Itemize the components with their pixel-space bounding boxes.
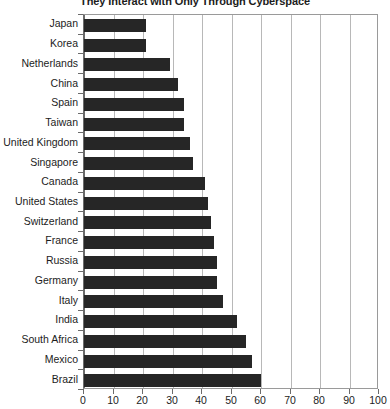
bar xyxy=(84,197,208,210)
y-axis-label: Taiwan xyxy=(0,117,78,128)
bar-row xyxy=(84,193,378,214)
y-axis-label: France xyxy=(0,235,78,246)
x-axis-label: 60 xyxy=(254,394,266,407)
bar xyxy=(84,177,205,190)
x-axis-label: 100 xyxy=(369,394,387,407)
x-axis-tick-labels: 0102030405060708090100 xyxy=(83,394,378,408)
bar-row xyxy=(84,272,378,293)
y-axis-label: Russia xyxy=(0,255,78,266)
bar xyxy=(84,118,184,131)
bar-row xyxy=(84,331,378,352)
bar-row xyxy=(84,153,378,174)
bar-row xyxy=(84,35,378,56)
bar-row xyxy=(84,232,378,253)
y-axis-label: Korea xyxy=(0,38,78,49)
bar-row xyxy=(84,94,378,115)
bar xyxy=(84,78,178,91)
bar xyxy=(84,19,146,32)
y-axis-label: United States xyxy=(0,196,78,207)
y-axis-label: Italy xyxy=(0,295,78,306)
bars-layer xyxy=(84,15,377,388)
y-axis-label: South Africa xyxy=(0,334,78,345)
bar-row xyxy=(84,54,378,75)
bar-row xyxy=(84,351,378,372)
bar-row xyxy=(84,173,378,194)
bar xyxy=(84,295,223,308)
x-axis-label: 10 xyxy=(107,394,119,407)
x-axis-label: 0 xyxy=(80,394,86,407)
y-axis-label: Spain xyxy=(0,97,78,108)
bar xyxy=(84,157,193,170)
bar xyxy=(84,236,214,249)
y-axis-label: United Kingdom xyxy=(0,137,78,148)
x-axis-label: 30 xyxy=(166,394,178,407)
bar xyxy=(84,315,237,328)
y-axis-label: Mexico xyxy=(0,354,78,365)
y-axis-label: Japan xyxy=(0,18,78,29)
chart-title: They Interact with Only Through Cyberspa… xyxy=(0,0,390,8)
bar xyxy=(84,137,190,150)
bar xyxy=(84,335,246,348)
y-axis-label: Brazil xyxy=(0,374,78,385)
x-axis-label: 80 xyxy=(313,394,325,407)
bar xyxy=(84,58,170,71)
y-axis-label: Germany xyxy=(0,275,78,286)
bar xyxy=(84,276,217,289)
x-axis-label: 70 xyxy=(284,394,296,407)
x-axis-label: 20 xyxy=(136,394,148,407)
bar-row xyxy=(84,114,378,135)
bar-row xyxy=(84,291,378,312)
y-axis-label: Switzerland xyxy=(0,216,78,227)
bar-row xyxy=(84,74,378,95)
bar xyxy=(84,355,252,368)
y-axis-label: Singapore xyxy=(0,157,78,168)
bar xyxy=(84,374,261,387)
x-axis-label: 90 xyxy=(343,394,355,407)
bar-row xyxy=(84,370,378,389)
bar-chart: They Interact with Only Through Cyberspa… xyxy=(0,0,390,409)
bar-row xyxy=(84,311,378,332)
bar-row xyxy=(84,252,378,273)
y-axis-label: Netherlands xyxy=(0,58,78,69)
bar-row xyxy=(84,212,378,233)
bar xyxy=(84,98,184,111)
y-axis-label: India xyxy=(0,314,78,325)
plot-area xyxy=(83,14,378,389)
bar-row xyxy=(84,133,378,154)
bar xyxy=(84,39,146,52)
y-axis-category-labels: JapanKoreaNetherlandsChinaSpainTaiwanUni… xyxy=(0,14,78,389)
x-axis-label: 50 xyxy=(225,394,237,407)
x-axis-label: 40 xyxy=(195,394,207,407)
bar xyxy=(84,256,217,269)
bar-row xyxy=(84,15,378,36)
y-axis-label: Canada xyxy=(0,176,78,187)
y-axis-label: China xyxy=(0,78,78,89)
bar xyxy=(84,216,211,229)
